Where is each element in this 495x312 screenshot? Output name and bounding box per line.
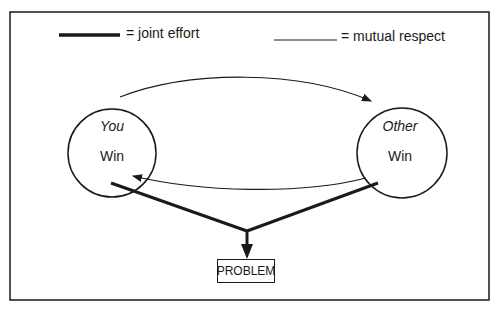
diagram-frame [10,12,489,300]
arrow-down-icon [241,244,253,259]
you-to-problem-line [111,183,247,231]
you-title: You [100,118,124,134]
other-outcome: Win [388,148,412,164]
problem-label: PROBLEM [217,264,276,278]
you-outcome: Win [100,148,124,164]
other-to-problem-line [247,183,378,231]
problem-box: PROBLEM [217,259,275,283]
legend-joint-effort-label: = joint effort [126,25,199,41]
other-to-you-arrow [133,176,366,189]
legend-mutual-respect-label: = mutual respect [341,28,445,44]
other-title: Other [382,118,417,134]
you-to-other-arrow [120,77,371,101]
